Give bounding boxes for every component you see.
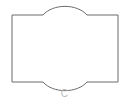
tile-outline-path — [12, 6, 118, 90]
figure-container: C — [0, 0, 129, 107]
figure-caption-label: C — [0, 88, 129, 100]
